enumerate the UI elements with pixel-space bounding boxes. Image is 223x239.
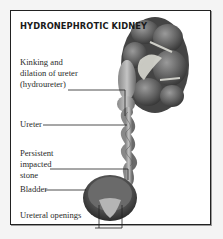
- bladder-icon: [83, 175, 137, 221]
- label-line: dilation of ureter: [20, 68, 78, 79]
- label-bladder: Bladder: [20, 184, 47, 195]
- kidney-icon: [117, 17, 189, 113]
- label-line: impacted: [20, 159, 53, 170]
- label-hydroureter: Kinking and dilation of ureter (hydroure…: [20, 57, 78, 90]
- label-line: Persistent: [20, 148, 53, 159]
- label-stone: Persistent impacted stone: [20, 148, 53, 181]
- label-ureteral-openings: Ureteral openings: [20, 210, 81, 221]
- label-ureter: Ureter: [20, 119, 42, 130]
- label-line: Kinking and: [20, 57, 78, 68]
- label-line: (hydroureter): [20, 79, 78, 90]
- label-line: stone: [20, 170, 53, 181]
- figure-title: HYDRONEPHROTIC KIDNEY: [20, 21, 147, 31]
